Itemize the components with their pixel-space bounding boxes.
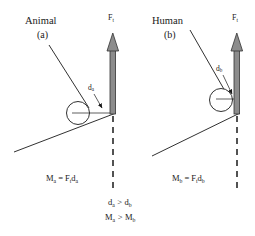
equation-moment-human: M (172, 173, 180, 183)
force-arrow-head-animal (107, 33, 119, 51)
equation-equals-animal: = (56, 173, 65, 183)
moment-arm-figure: Animal (a) Ft da Ma=Ftda Human (b) Ft db… (0, 0, 255, 236)
panel-title-animal: Animal (25, 16, 57, 27)
distance-pointer-animal (94, 94, 102, 108)
force-subscript-human: t (236, 17, 238, 23)
panel-title-human: Human (152, 16, 183, 27)
panel-subtitle-animal: (a) (37, 30, 48, 40)
leader-line-human (190, 30, 225, 91)
ramp-line-animal (14, 113, 116, 152)
comparison-distance-operator: > (115, 197, 125, 207)
joint-circle-human (210, 89, 233, 112)
force-label-human: Ft (232, 14, 238, 22)
equation-human: Mb=Ftdb (172, 174, 205, 183)
ramp-line-human (152, 113, 240, 156)
panel-subtitle-human: (b) (164, 30, 176, 40)
force-arrow-shaft-animal (110, 48, 116, 114)
comparison-distance-right-sub: b (129, 202, 132, 208)
force-arrow-shaft-human (234, 48, 240, 114)
leader-line-animal (49, 45, 89, 108)
force-arrow-head-human (231, 33, 243, 51)
comparison-distance: da>db (108, 198, 132, 207)
equation-distance-sub-human: b (202, 178, 205, 184)
equation-animal: Ma=Ftda (46, 174, 78, 183)
distance-label-human: db (216, 65, 222, 73)
comparison-moment-right-sub: b (132, 217, 135, 223)
force-subscript-animal: t (112, 17, 114, 23)
distance-label-animal: da (88, 84, 94, 92)
comparison-moment: Ma>Mb (105, 213, 135, 222)
force-label-animal: Ft (108, 14, 114, 22)
equation-equals-human: = (182, 173, 191, 183)
distance-subscript-animal: a (92, 86, 94, 92)
comparison-moment-operator: > (115, 212, 125, 222)
comparison-moment-left: M (105, 212, 113, 222)
distance-subscript-human: b (220, 67, 223, 73)
equation-distance-sub-animal: a (76, 178, 79, 184)
equation-moment-animal: M (46, 173, 54, 183)
